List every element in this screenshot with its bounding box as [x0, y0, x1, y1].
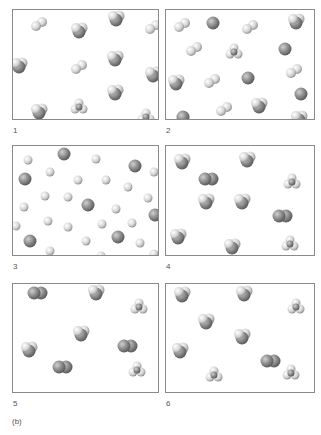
atom-dark-molecule-icon [279, 43, 292, 56]
tri-light-molecule-icon [168, 75, 185, 91]
atom-dark-molecule-icon [177, 111, 190, 121]
tri-light-molecule-icon [174, 287, 191, 303]
atom-small-molecule-icon [13, 222, 21, 231]
atom-dark-molecule-icon [58, 148, 71, 161]
tri-light-molecule-icon [88, 285, 105, 301]
tetra-light-molecule-icon [284, 174, 301, 189]
molecules-layer [13, 284, 159, 393]
atom-dark-molecule-icon [295, 88, 308, 101]
atom-dark-molecule-icon [82, 199, 95, 212]
atom-small-molecule-icon [98, 220, 107, 229]
tetra-light-molecule-icon [129, 362, 146, 377]
diatomic-dark-molecule-icon [118, 340, 138, 353]
tri-light-molecule-icon [174, 154, 191, 170]
atom-small-molecule-icon [112, 205, 121, 214]
tri-light-molecule-icon [107, 85, 124, 101]
atom-dark-molecule-icon [129, 160, 142, 173]
tri-light-molecule-icon [224, 239, 241, 255]
atom-dark-molecule-icon [207, 17, 220, 30]
diagram-panel-2 [165, 9, 315, 120]
atom-small-molecule-icon [144, 194, 153, 203]
diatomic-light-molecule-icon [145, 20, 159, 34]
diatomic-light-molecule-icon [216, 102, 232, 116]
diatomic-dark-molecule-icon [53, 361, 73, 374]
atom-small-molecule-icon [97, 252, 106, 257]
tri-light-molecule-icon [234, 329, 251, 345]
tri-light-molecule-icon [291, 111, 308, 121]
diatomic-dark-molecule-icon [199, 173, 219, 186]
diagram-panel-1 [12, 9, 159, 120]
diatomic-light-molecule-icon [286, 64, 302, 78]
diatomic-light-molecule-icon [186, 42, 202, 56]
atom-small-molecule-icon [74, 176, 83, 185]
molecules-layer [166, 10, 315, 120]
tri-light-molecule-icon [239, 152, 256, 168]
molecules-layer [166, 284, 315, 393]
atom-dark-molecule-icon [112, 231, 125, 244]
atom-small-molecule-icon [150, 250, 159, 257]
tri-light-molecule-icon [288, 14, 305, 30]
diatomic-light-molecule-icon [31, 17, 47, 31]
molecules-layer [166, 146, 315, 256]
diatomic-light-molecule-icon [204, 74, 220, 88]
atom-small-molecule-icon [150, 168, 159, 177]
tri-light-molecule-icon [172, 343, 189, 359]
tri-light-molecule-icon [107, 51, 124, 67]
atom-dark-molecule-icon [19, 173, 32, 186]
tetra-light-molecule-icon [282, 236, 299, 251]
atom-small-molecule-icon [41, 192, 50, 201]
tri-light-molecule-icon [145, 67, 159, 83]
tri-light-molecule-icon [251, 98, 268, 114]
atom-small-molecule-icon [64, 223, 73, 232]
tri-light-molecule-icon [170, 229, 187, 245]
diatomic-light-molecule-icon [174, 18, 190, 32]
atom-small-molecule-icon [44, 217, 53, 226]
diatomic-light-molecule-icon [71, 60, 87, 74]
tri-light-molecule-icon [234, 194, 251, 210]
figure-caption: (b) [12, 417, 22, 426]
tetra-light-molecule-icon [283, 365, 300, 380]
atom-dark-molecule-icon [242, 72, 255, 85]
panel-label-5: 5 [13, 399, 17, 408]
atom-dark-molecule-icon [149, 209, 160, 222]
tri-light-molecule-icon [198, 194, 215, 210]
tetra-light-molecule-icon [71, 99, 88, 114]
panel-label-6: 6 [166, 399, 170, 408]
atom-dark-molecule-icon [24, 235, 37, 248]
atom-small-molecule-icon [102, 176, 111, 185]
molecules-layer [13, 146, 159, 256]
tetra-light-molecule-icon [206, 367, 223, 382]
tri-light-molecule-icon [108, 11, 125, 27]
atom-small-molecule-icon [46, 168, 55, 177]
atom-small-molecule-icon [20, 203, 29, 212]
atom-small-molecule-icon [46, 247, 55, 256]
atom-small-molecule-icon [64, 193, 73, 202]
tri-light-molecule-icon [13, 58, 28, 74]
atom-small-molecule-icon [92, 155, 101, 164]
panel-label-1: 1 [13, 126, 17, 135]
tetra-light-molecule-icon [131, 299, 148, 314]
panel-label-2: 2 [166, 126, 170, 135]
tri-light-molecule-icon [71, 23, 88, 39]
diagram-panel-6 [165, 283, 315, 393]
tri-light-molecule-icon [21, 342, 38, 358]
diatomic-dark-molecule-icon [273, 210, 293, 223]
tri-light-molecule-icon [236, 286, 253, 302]
atom-small-molecule-icon [136, 239, 145, 248]
diagram-panel-4 [165, 145, 315, 256]
atom-small-molecule-icon [82, 237, 91, 246]
tri-light-molecule-icon [73, 326, 90, 342]
atom-small-molecule-icon [128, 219, 137, 228]
diagram-panel-5 [12, 283, 159, 393]
panel-label-4: 4 [166, 262, 170, 271]
diatomic-dark-molecule-icon [261, 355, 281, 368]
tetra-light-molecule-icon [288, 299, 305, 314]
atom-small-molecule-icon [124, 183, 133, 192]
diatomic-light-molecule-icon [242, 20, 258, 34]
panel-label-3: 3 [13, 262, 17, 271]
tetra-light-molecule-icon [138, 109, 155, 121]
diagram-panel-3 [12, 145, 159, 256]
diatomic-dark-molecule-icon [28, 287, 48, 300]
molecules-layer [13, 10, 159, 120]
tetra-light-molecule-icon [226, 44, 243, 59]
